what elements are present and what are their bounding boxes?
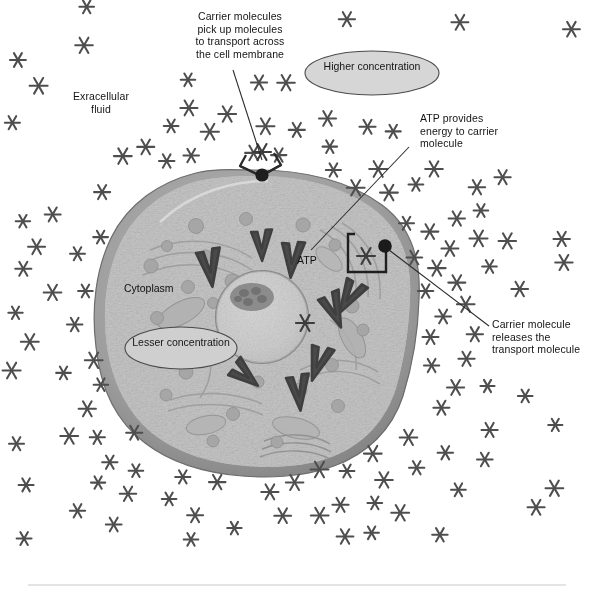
molecule-asterisk <box>162 493 177 506</box>
vesicle <box>144 259 158 273</box>
bubble-higher-concentration <box>305 51 439 95</box>
carrier-anchor-dot <box>255 168 268 181</box>
vesicle <box>332 400 345 413</box>
molecule-asterisk <box>70 504 85 517</box>
molecule-asterisk <box>251 75 267 89</box>
molecule-asterisk <box>289 123 305 137</box>
molecule-asterisk <box>457 297 475 312</box>
molecule-asterisk <box>15 262 31 276</box>
molecule-asterisk <box>423 330 439 344</box>
molecule-asterisk <box>75 38 93 53</box>
molecule-asterisk <box>187 508 203 522</box>
molecule-asterisk <box>367 497 382 510</box>
molecule-asterisk <box>201 124 219 140</box>
molecule-asterisk <box>409 461 424 474</box>
molecule-asterisk <box>469 180 486 194</box>
molecule-asterisk <box>477 453 493 467</box>
molecule-asterisk <box>90 431 105 444</box>
molecule-asterisk <box>79 0 94 13</box>
molecule-asterisk <box>400 430 418 445</box>
molecule-asterisk <box>548 419 562 431</box>
molecule-asterisk <box>274 508 291 523</box>
molecule-asterisk <box>30 78 48 94</box>
molecule-asterisk <box>45 207 61 221</box>
vesicle <box>160 389 172 401</box>
molecule-asterisk <box>102 456 117 469</box>
molecule-asterisk <box>114 148 132 163</box>
molecule-asterisk <box>447 380 464 395</box>
molecule-asterisk <box>91 476 105 488</box>
molecule-asterisk <box>184 533 199 546</box>
molecule-asterisk <box>9 437 24 450</box>
vesicle <box>162 241 173 252</box>
molecule-asterisk <box>93 231 108 244</box>
vesicle <box>207 435 219 447</box>
molecule-asterisk <box>563 22 580 37</box>
molecule-asterisk <box>375 472 393 487</box>
molecule-asterisk <box>17 532 32 545</box>
molecule-asterisk <box>56 367 71 380</box>
molecule-asterisk <box>183 149 199 162</box>
molecule-asterisk <box>441 241 458 256</box>
molecule-asterisk <box>326 163 341 176</box>
molecule-asterisk <box>435 310 451 324</box>
molecule-asterisk <box>364 526 379 539</box>
molecule-asterisk <box>181 74 196 87</box>
molecule-asterisk <box>369 161 387 177</box>
molecule-asterisk <box>494 170 510 184</box>
molecule-asterisk <box>391 505 409 520</box>
molecule-asterisk <box>433 401 449 415</box>
molecule-asterisk <box>323 140 338 153</box>
molecule-asterisk <box>3 363 21 379</box>
molecule-asterisk <box>10 53 26 67</box>
molecule-asterisk <box>60 428 78 444</box>
molecule-asterisk <box>451 483 466 496</box>
vesicle <box>357 324 369 336</box>
vesicle <box>271 436 283 448</box>
molecule-asterisk <box>5 116 20 129</box>
vesicle <box>151 312 164 325</box>
molecule-asterisk <box>432 528 447 541</box>
molecule-asterisk <box>286 475 304 490</box>
molecule-asterisk <box>555 255 572 270</box>
label-atp: ATP <box>297 254 317 266</box>
molecule-asterisk <box>78 285 93 298</box>
molecule-asterisk <box>164 120 179 133</box>
molecule-asterisk <box>277 75 295 90</box>
molecule-asterisk <box>137 140 154 155</box>
label-cytoplasm: Cytoplasm <box>124 282 174 294</box>
molecule-asterisk <box>19 478 34 491</box>
molecule-asterisk <box>79 401 96 416</box>
molecule-asterisk <box>467 327 483 341</box>
molecule-asterisk <box>428 260 446 275</box>
molecule-asterisk <box>339 12 355 26</box>
molecule-asterisk <box>553 232 569 246</box>
molecule-asterisk <box>425 161 443 176</box>
molecule-asterisk <box>337 529 354 544</box>
molecule-asterisk <box>180 100 197 115</box>
molecule-asterisk <box>499 233 516 248</box>
molecule-asterisk <box>518 390 533 403</box>
molecule-asterisk <box>261 484 278 499</box>
molecule-asterisk <box>44 285 62 300</box>
molecule-asterisk <box>94 185 110 199</box>
molecule-asterisk <box>8 307 22 319</box>
molecule-asterisk <box>482 260 497 273</box>
bubble-lesser-concentration <box>125 327 237 369</box>
molecule-asterisk <box>319 111 336 126</box>
vesicle <box>296 218 310 232</box>
molecule-asterisk <box>332 498 348 512</box>
molecule-asterisk <box>311 508 329 523</box>
molecule-asterisk <box>218 106 236 121</box>
molecule-asterisk <box>511 282 528 296</box>
vesicle <box>329 239 341 251</box>
molecule-asterisk <box>340 465 355 478</box>
vesicle <box>182 281 195 294</box>
diagram-canvas: Carrier molecules pick up molecules to t… <box>0 0 595 593</box>
molecule-asterisk <box>458 352 474 366</box>
molecule-asterisk <box>418 284 433 297</box>
vesicle <box>227 408 240 421</box>
molecule-asterisk <box>482 423 498 437</box>
vesicle <box>240 213 253 226</box>
molecule-asterisk <box>70 247 85 260</box>
